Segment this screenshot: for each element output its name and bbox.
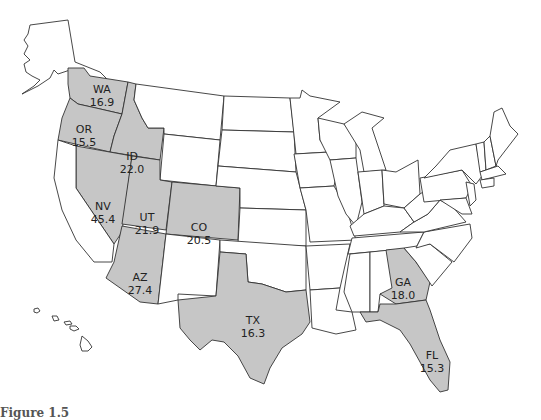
state-ks	[238, 208, 306, 246]
label-or-abbr: OR	[76, 123, 93, 136]
state-ct	[480, 178, 494, 188]
label-nv-value: 45.4	[91, 213, 116, 226]
state-ms	[344, 252, 370, 312]
state-wy	[160, 134, 220, 186]
state-hi	[34, 308, 92, 351]
label-co-value: 20.5	[187, 234, 212, 247]
label-or-value: 15.5	[72, 136, 97, 149]
label-tx-abbr: TX	[245, 314, 261, 327]
label-az-value: 27.4	[128, 284, 153, 297]
state-ar	[306, 244, 350, 290]
label-co-abbr: CO	[191, 221, 208, 234]
state-fl	[360, 300, 450, 392]
label-nv-abbr: NV	[95, 200, 111, 213]
label-ut-value: 21.9	[135, 224, 160, 237]
label-id-value: 22.0	[120, 163, 145, 176]
state-nd	[222, 96, 294, 132]
label-ut-abbr: UT	[140, 211, 155, 224]
figure-label: Figure 1.5	[0, 406, 69, 420]
label-wa-abbr: WA	[93, 83, 111, 96]
label-fl-value: 15.3	[420, 362, 445, 375]
figure-caption: Figure 1.5	[0, 406, 69, 420]
label-tx-value: 16.3	[241, 327, 266, 340]
label-id-abbr: ID	[126, 150, 138, 163]
state-me	[490, 108, 518, 166]
label-ga-value: 18.0	[391, 289, 416, 302]
label-fl-abbr: FL	[426, 349, 439, 362]
label-az-abbr: AZ	[132, 271, 148, 284]
label-ga-abbr-visible: GA	[395, 276, 412, 289]
label-wa-value: 16.9	[90, 96, 115, 109]
state-sd	[218, 130, 296, 172]
